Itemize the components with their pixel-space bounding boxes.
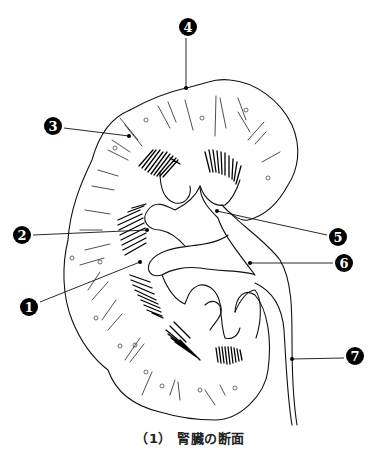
calyx-upper-right (200, 180, 240, 205)
label-7: 7 (290, 347, 364, 365)
svg-text:3: 3 (48, 119, 57, 134)
figure-caption: （1） 腎臓の断面 (0, 428, 380, 447)
svg-text:4: 4 (183, 20, 192, 35)
pyramid-upper-right (205, 150, 241, 184)
svg-text:1: 1 (24, 300, 33, 315)
label-1: 1 (20, 260, 142, 316)
calyx-lower-left (162, 275, 221, 330)
label-4: 4 (179, 18, 197, 90)
calyx-upper-left (160, 172, 190, 203)
label-5: 5 (215, 209, 347, 246)
svg-text:6: 6 (339, 256, 348, 271)
pyramid-lower-mid (166, 322, 200, 360)
pyramid-middle-left (118, 204, 146, 255)
kidney-outline (64, 80, 298, 420)
label-3: 3 (44, 117, 131, 138)
label-6: 6 (248, 254, 353, 272)
cortex-striations (70, 96, 280, 405)
calyx-lower-mid (205, 301, 240, 338)
svg-text:7: 7 (350, 349, 359, 364)
pyramid-lower-right (216, 347, 242, 364)
renal-pelvis (145, 186, 255, 276)
svg-text:5: 5 (333, 230, 342, 245)
pyramid-lower-left (130, 275, 163, 318)
pyramid-upper-left (139, 150, 180, 177)
svg-text:2: 2 (17, 228, 26, 243)
kidney-cross-section-diagram: 1 2 3 4 5 6 7 (0, 0, 380, 465)
